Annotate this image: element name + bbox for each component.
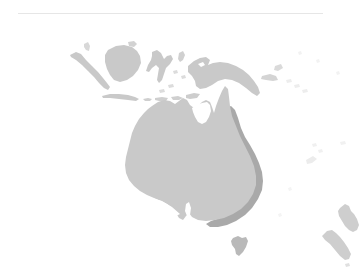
oceania-map-figure xyxy=(40,38,363,271)
header-divider xyxy=(18,13,323,14)
oceania-map xyxy=(40,38,363,271)
